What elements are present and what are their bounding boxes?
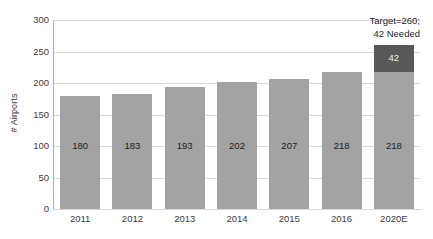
gridline (54, 209, 420, 210)
x-axis-tick-label: 2014 (211, 214, 263, 224)
target-annotation-line-2: 42 Needed (370, 27, 420, 40)
bar-segment-airports[interactable] (112, 94, 152, 209)
x-axis-tick-label: 2020E (368, 214, 420, 224)
bar-group[interactable]: 202 (217, 20, 257, 209)
y-axis-tick-label: 100 (5, 141, 49, 151)
y-axis-tick-labels: 050100150200250300 (0, 0, 49, 239)
x-axis-tick-label: 2015 (263, 214, 315, 224)
x-axis-tick-label: 2012 (106, 214, 158, 224)
bar-value-label: 183 (112, 141, 152, 151)
x-axis-tick-label: 2011 (54, 214, 106, 224)
y-axis-tick-label: 300 (5, 15, 49, 25)
y-axis-tick-label: 150 (5, 110, 49, 120)
bar-group[interactable]: 183 (112, 20, 152, 209)
bar-chart: # Airports 050100150200250300 1801831932… (0, 0, 433, 239)
bar-segment-airports[interactable] (60, 96, 100, 209)
bar-group[interactable]: 180 (60, 20, 100, 209)
y-axis-tick-label: 200 (5, 78, 49, 88)
x-axis-tick-label: 2016 (315, 214, 367, 224)
bar-value-label: 202 (217, 141, 257, 151)
target-annotation-line-1: Target=260; (370, 14, 420, 27)
bar-value-label: 207 (269, 141, 309, 151)
bar-group[interactable]: 21842 (374, 20, 414, 209)
bar-value-label: 193 (165, 141, 205, 151)
y-axis-tick-label: 0 (5, 204, 49, 214)
target-annotation: Target=260; 42 Needed (370, 14, 420, 40)
bar-group[interactable]: 193 (165, 20, 205, 209)
bar-value-label: 218 (322, 141, 362, 151)
y-axis-tick-label: 250 (5, 47, 49, 57)
bar-value-label: 218 (374, 141, 414, 151)
bar-value-label: 180 (60, 141, 100, 151)
y-axis-tick-label: 50 (5, 173, 49, 183)
x-axis-tick-label: 2013 (159, 214, 211, 224)
bar-group[interactable]: 207 (269, 20, 309, 209)
bar-value-label-needed: 42 (374, 53, 414, 63)
bar-group[interactable]: 218 (322, 20, 362, 209)
plot-area: 18018319320220721821842 (54, 20, 420, 209)
